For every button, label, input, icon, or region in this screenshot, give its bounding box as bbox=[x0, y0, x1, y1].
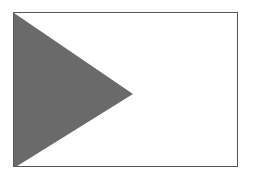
diagram-frame bbox=[13, 12, 238, 167]
right-pointing-triangle-icon bbox=[14, 13, 133, 166]
figure-caption bbox=[14, 0, 174, 3]
triangle-shape bbox=[14, 13, 237, 166]
